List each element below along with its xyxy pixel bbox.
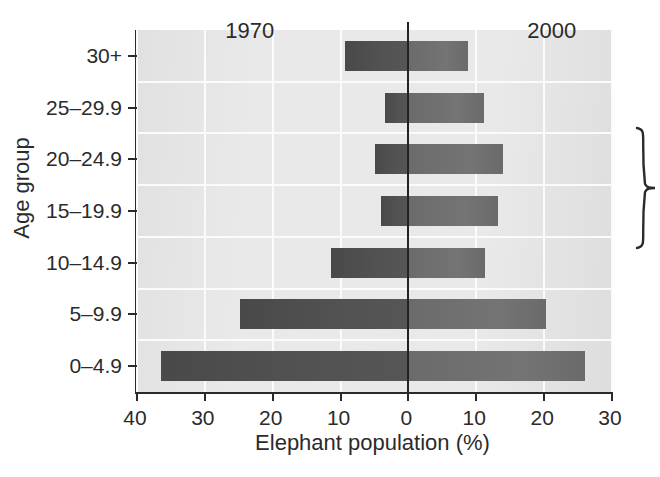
bar-1970-0–4.9 xyxy=(161,351,409,381)
bar-2000-15–19.9 xyxy=(408,196,498,226)
bar-1970-10–14.9 xyxy=(331,248,408,278)
x-tick-label: 20 xyxy=(259,406,282,430)
gridline-horizontal xyxy=(137,339,612,341)
gridline-horizontal xyxy=(137,184,612,186)
gridline-vertical xyxy=(543,30,545,392)
y-tick xyxy=(128,313,137,315)
x-tick-label: 30 xyxy=(598,406,621,430)
bar-2000-10–14.9 xyxy=(408,248,485,278)
x-tick xyxy=(543,392,545,401)
bar-1970-15–19.9 xyxy=(381,196,408,226)
x-tick-label: 0 xyxy=(401,406,413,430)
x-tick xyxy=(272,392,274,401)
y-tick xyxy=(128,55,137,57)
bar-1970-25–29.9 xyxy=(385,93,408,123)
y-tick-label: 10–14.9 xyxy=(46,251,122,275)
y-tick xyxy=(128,365,137,367)
elephant-population-pyramid-chart: 1970 2000 Prime reproductive years 40302… xyxy=(0,0,660,477)
gridline-horizontal xyxy=(137,288,612,290)
curly-brace-icon xyxy=(634,126,658,250)
zero-axis-line xyxy=(407,22,409,392)
series-label-1970: 1970 xyxy=(225,18,274,44)
x-tick-label: 20 xyxy=(530,406,553,430)
bar-2000-25–29.9 xyxy=(408,93,484,123)
x-tick-label: 10 xyxy=(327,406,350,430)
y-tick-label: 25–29.9 xyxy=(46,96,122,120)
gridline-vertical xyxy=(272,30,274,392)
y-tick-label: 20–24.9 xyxy=(46,147,122,171)
x-axis-title: Elephant population (%) xyxy=(135,430,610,456)
bar-2000-20–24.9 xyxy=(408,144,502,174)
y-tick xyxy=(128,262,137,264)
bar-1970-20–24.9 xyxy=(375,144,409,174)
x-tick xyxy=(136,392,138,401)
y-tick-label: 0–4.9 xyxy=(69,354,122,378)
y-tick-label: 15–19.9 xyxy=(46,199,122,223)
series-label-2000: 2000 xyxy=(527,18,576,44)
x-tick xyxy=(204,392,206,401)
bar-1970-5–9.9 xyxy=(240,299,408,329)
gridline-vertical xyxy=(611,30,613,392)
bar-2000-30+ xyxy=(408,41,468,71)
x-tick xyxy=(340,392,342,401)
bar-2000-0–4.9 xyxy=(408,351,584,381)
gridline-vertical xyxy=(204,30,206,392)
gridline-vertical xyxy=(340,30,342,392)
x-tick-label: 10 xyxy=(463,406,486,430)
x-tick xyxy=(611,392,613,401)
x-tick xyxy=(475,392,477,401)
y-tick-label: 30+ xyxy=(86,44,122,68)
y-tick-label: 5–9.9 xyxy=(69,302,122,326)
y-tick xyxy=(128,107,137,109)
bar-1970-30+ xyxy=(345,41,408,71)
y-axis-title: Age group xyxy=(9,118,35,258)
y-tick xyxy=(128,158,137,160)
x-tick-label: 30 xyxy=(191,406,214,430)
x-tick-label: 40 xyxy=(123,406,146,430)
bar-2000-5–9.9 xyxy=(408,299,546,329)
gridline-horizontal xyxy=(137,132,612,134)
x-tick xyxy=(407,392,409,401)
paper-texture-overlay xyxy=(137,30,612,392)
gridline-horizontal xyxy=(137,236,612,238)
y-tick xyxy=(128,210,137,212)
plot-area: 1970 2000 Prime reproductive years xyxy=(135,30,612,394)
gridline-horizontal xyxy=(137,81,612,83)
